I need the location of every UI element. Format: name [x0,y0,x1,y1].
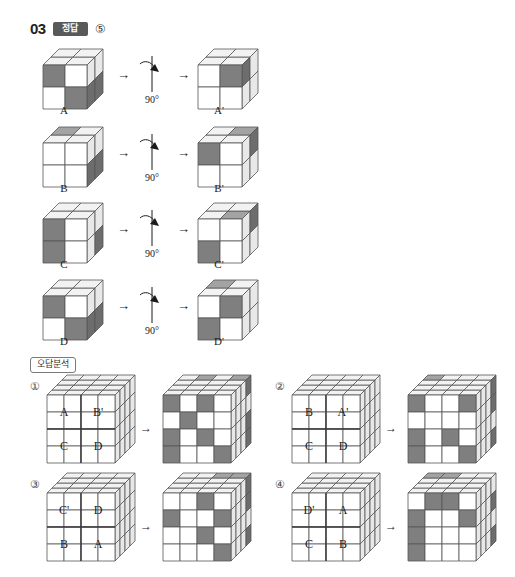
option-3-quadrant-label: A [94,537,103,551]
row-b-result [197,126,259,188]
option-1-result-front-cell [163,412,180,429]
option-1-assembly-cube: AB'CD [46,374,136,464]
option-1-result-front-cell [197,412,214,429]
rotation-axis-icon [135,208,169,248]
row-c-source-front-cell [65,219,87,241]
row-d-source-front-cell [43,296,65,318]
rotation-arrowhead [150,218,159,226]
option-1-arrow: → [140,422,152,434]
option-4-result [407,472,497,562]
row-b-source [42,126,104,188]
option-4-assembly: D'ACB [291,472,381,562]
row-a-source-label: A [34,104,94,116]
row-a-rotation: 90° [135,54,169,94]
option-1-result-front-cell [197,395,214,412]
row-b-source-label: B [34,182,94,194]
option-4-result-front-cell [408,510,425,527]
option-3-result-front-cell [197,544,214,561]
option-1-result-cube [162,374,252,464]
row-d-rotation-degrees: 90° [132,325,172,336]
option-3-assembly-cube: C'DBA [46,472,136,562]
row-b-source-cube [42,126,104,188]
option-4-result-cube [407,472,497,562]
option-1-result-front-cell [197,446,214,463]
option-3-result-front-cell [163,493,180,510]
option-3-result-front-cell [214,527,231,544]
row-d-rotation: 90° [135,285,169,325]
row-a-arrow-left: → [117,68,130,81]
option-3-result-front-cell [214,510,231,527]
question-number: 03 [30,20,46,37]
option-3-result-front-cell [180,510,197,527]
option-4-result-front-cell [425,493,442,510]
row-a-source-front-cell [65,65,87,87]
row-b-result-label: B' [189,182,249,194]
option-4-result-front-cell [459,527,476,544]
option-1-result-front-cell [163,395,180,412]
option-3-result-front-cell [197,527,214,544]
row-a-source-cube [42,48,104,110]
row-c-result-cube [197,202,259,264]
row-d-result-front-cell [198,296,220,318]
row-b: B→90°→B' [0,126,515,204]
option-3-result-front-cell [163,510,180,527]
rotation-axis-icon [135,285,169,325]
row-c-result-front-cell [198,219,220,241]
option-4-quadrant-label: A [339,503,348,517]
row-a-result-cube [197,48,259,110]
row-d-result-label: D' [189,335,249,347]
option-3-result [162,472,252,562]
option-3-quadrant-label: B [60,537,68,551]
row-c-arrow-right: → [177,222,190,235]
option-1-number: ① [30,380,40,393]
option-3-result-cube [162,472,252,562]
row-a-source [42,48,104,110]
option-4-arrow: → [385,520,397,532]
option-3-result-front-cell [180,527,197,544]
row-b-result-cube [197,126,259,188]
row-b-result-front-cell [220,143,242,165]
row-c-rotation-degrees: 90° [132,248,172,259]
option-1-quadrant-label: D [94,439,103,453]
option-4-result-front-cell [459,544,476,561]
option-2-result [407,374,497,464]
row-a-result-front-cell [198,65,220,87]
option-3-result-front-cell [163,527,180,544]
option-4-result-front-cell [425,527,442,544]
option-4-result-front-cell [442,493,459,510]
question-header: 03 정답 ⑤ [30,20,106,37]
solution-page: 03 정답 ⑤ A→90°→A'B→90°→B'C→90°→C'D→90°→D'… [0,0,515,577]
row-c-arrow-left: → [117,222,130,235]
row-b-rotation: 90° [135,132,169,172]
row-a-source-front-cell [43,65,65,87]
option-4-result-front-cell [408,527,425,544]
option-1-result [162,374,252,464]
option-4-result-front-cell [459,493,476,510]
option-1-assembly: AB'CD [46,374,136,464]
option-3-quadrant-label: C' [59,503,69,517]
option-2-result-front-cell [442,412,459,429]
option-2-result-front-cell [442,446,459,463]
answer-badge: 정답 [53,22,88,36]
option-2-quadrant-label: B [305,405,313,419]
option-3-result-front-cell [214,544,231,561]
option-4-result-front-cell [459,510,476,527]
option-2-result-front-cell [442,429,459,446]
row-b-arrow-right: → [177,146,190,159]
row-d-source-cube [42,279,104,341]
rotation-axis-icon [135,132,169,172]
option-3-result-front-cell [180,493,197,510]
option-2-result-front-cell [459,429,476,446]
option-1-result-front-cell [180,429,197,446]
row-c-rotation: 90° [135,208,169,248]
option-1-quadrant-label: C [60,439,68,453]
option-2-quadrant-label: C [305,439,313,453]
wrong-answer-analysis-label: 오답분석 [30,357,76,373]
option-4-result-front-cell [442,510,459,527]
option-3-result-front-cell [214,493,231,510]
option-2-quadrant-label: A' [338,405,349,419]
option-3-result-front-cell [197,510,214,527]
row-d-source [42,279,104,341]
option-2-result-front-cell [408,429,425,446]
option-3-quadrant-label: D [94,503,103,517]
